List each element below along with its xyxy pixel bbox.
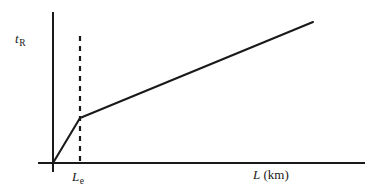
x-axis-label: L (km)	[253, 168, 289, 181]
tick-label-subscript: e	[80, 176, 84, 186]
y-axis-label-subscript: R	[19, 38, 25, 48]
y-axis-label: tR	[15, 32, 25, 46]
retention-time-curve	[53, 22, 313, 163]
x-axis-tick-label-critical-length: Le	[72, 170, 83, 184]
figure-container: tR Le L (km)	[0, 0, 372, 196]
tick-label-variable: L	[72, 169, 79, 184]
x-axis-label-units: (km)	[260, 167, 289, 182]
plot-canvas	[0, 0, 372, 196]
